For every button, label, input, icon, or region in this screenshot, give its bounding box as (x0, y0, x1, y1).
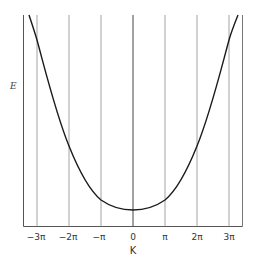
grid-lines (37, 15, 229, 227)
tick-label-neg3pi: −3π (27, 232, 46, 242)
tick-label-3pi: 3π (223, 232, 235, 242)
x-axis-label: K (130, 245, 137, 256)
tick-label-zero: 0 (130, 232, 136, 242)
energy-dispersion-chart: E −3π −2π −π 0 π 2π 3π K (0, 0, 256, 261)
tick-label-2pi: 2π (191, 232, 203, 242)
tick-label-pi: π (162, 232, 168, 242)
tick-label-negpi: −π (93, 232, 107, 242)
tick-label-neg2pi: −2π (59, 232, 78, 242)
x-tick-labels: −3π −2π −π 0 π 2π 3π (27, 232, 235, 242)
y-axis-label: E (9, 81, 17, 91)
